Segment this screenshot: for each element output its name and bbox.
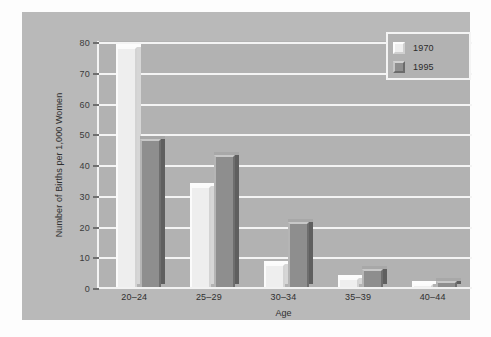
legend-swatch-1995-icon (393, 61, 405, 73)
x-axis-tick-label: 40–44 (395, 292, 470, 306)
bar-front-face (412, 284, 433, 287)
bar-front-face (116, 47, 137, 287)
bar-front-face (190, 186, 211, 287)
y-axis-tick (93, 104, 99, 106)
bar-1970-40-44 (412, 284, 433, 287)
x-axis-tick-label: 25–29 (172, 292, 247, 306)
bar-group (175, 41, 249, 287)
y-axis-tick-label: 40 (80, 161, 90, 171)
bar-side-face (309, 219, 313, 284)
y-axis-tick (93, 227, 99, 229)
bar-1970-25-29 (190, 186, 211, 287)
bar-side-face (161, 136, 165, 284)
y-axis-tick (93, 288, 99, 290)
y-axis-tick (93, 196, 99, 198)
bar-front-face (362, 269, 383, 287)
chart-page: Number of Births per 1,000 Women 0102030… (0, 0, 491, 337)
y-axis-tick (93, 257, 99, 259)
bar-1995-40-44 (436, 281, 457, 287)
y-axis-tick-label: 0 (85, 284, 90, 294)
x-axis-line (99, 287, 472, 289)
bar-group (249, 41, 323, 287)
y-axis-tick (93, 42, 99, 44)
bar-front-face (214, 155, 235, 287)
bar-1995-35-39 (362, 269, 383, 287)
y-axis-tick-label: 30 (80, 192, 90, 202)
y-axis-tick-label: 50 (80, 130, 90, 140)
x-axis-tick-labels: 20–2425–2930–3435–3940–44 (97, 292, 470, 306)
y-axis-title: Number of Births per 1,000 Women (52, 41, 66, 289)
y-axis-tick-label: 70 (80, 69, 90, 79)
bar-front-face (338, 278, 359, 287)
y-axis-tick (93, 134, 99, 136)
y-axis-tick-label: 20 (80, 223, 90, 233)
x-axis-tick-label: 35–39 (321, 292, 396, 306)
bar-front-face (140, 139, 161, 287)
y-axis-tick (93, 73, 99, 75)
chart-panel: Number of Births per 1,000 Women 0102030… (22, 12, 470, 320)
legend-item-1970: 1970 (393, 38, 469, 57)
bar-front-face (264, 264, 285, 287)
legend-item-1995: 1995 (393, 57, 469, 76)
bar-1995-20-24 (140, 139, 161, 287)
bar-1970-30-34 (264, 264, 285, 287)
bar-1970-35-39 (338, 278, 359, 287)
bar-1995-30-34 (288, 222, 309, 287)
bar-group (101, 41, 175, 287)
bar-1995-25-29 (214, 155, 235, 287)
y-axis-tick-label: 80 (80, 38, 90, 48)
chart-legend: 1970 1995 (386, 32, 471, 80)
x-axis-title: Age (97, 308, 470, 318)
bar-front-face (436, 281, 457, 287)
legend-label-1995: 1995 (413, 62, 434, 72)
bar-side-face (235, 152, 239, 284)
legend-swatch-1970-icon (393, 42, 405, 54)
y-axis-tick-label: 60 (80, 100, 90, 110)
y-axis-tick-label: 10 (80, 253, 90, 263)
bar-front-face (288, 222, 309, 287)
x-axis-tick-label: 30–34 (246, 292, 321, 306)
bar-1970-20-24 (116, 47, 137, 287)
x-axis-tick-label: 20–24 (97, 292, 172, 306)
legend-label-1970: 1970 (413, 43, 434, 53)
y-axis-tick (93, 165, 99, 167)
